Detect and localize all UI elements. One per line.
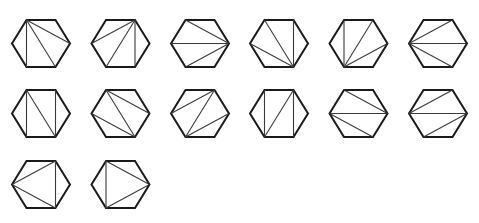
hexagon-triangulation-8 — [92, 90, 150, 137]
hexagon-triangulation-4 — [250, 20, 308, 67]
hexagon-triangulation-9 — [171, 90, 229, 137]
diagonal-bl-tr — [265, 90, 294, 137]
hexagon-triangulation-11 — [330, 90, 388, 137]
hexagon-triangulation-3 — [171, 20, 229, 67]
diagonal-bl-tr — [344, 20, 373, 67]
diagonal-tl-br — [27, 20, 56, 67]
hexagon-triangulations-diagram — [0, 0, 479, 223]
diagonal-tl-br — [27, 90, 56, 137]
hexagon-triangulation-6 — [409, 20, 467, 67]
hexagon-triangulation-5 — [330, 20, 388, 67]
diagonal-tr-bl — [106, 20, 135, 67]
hexagon-outline — [92, 161, 150, 208]
hexagon-triangulation-1 — [12, 20, 70, 67]
hexagon-triangulation-12 — [409, 90, 467, 137]
hexagon-triangulation-2 — [92, 20, 150, 67]
hexagon-outline — [12, 161, 70, 208]
diagonal-tr-bl — [186, 90, 215, 137]
hexagon-triangulation-13 — [12, 161, 70, 208]
hexagon-triangulation-10 — [250, 90, 308, 137]
hexagon-triangulation-7 — [12, 90, 70, 137]
hexagon-triangulation-14 — [92, 161, 150, 208]
diagonal-tl-br — [106, 90, 135, 137]
diagonal-br-tl — [265, 20, 294, 67]
